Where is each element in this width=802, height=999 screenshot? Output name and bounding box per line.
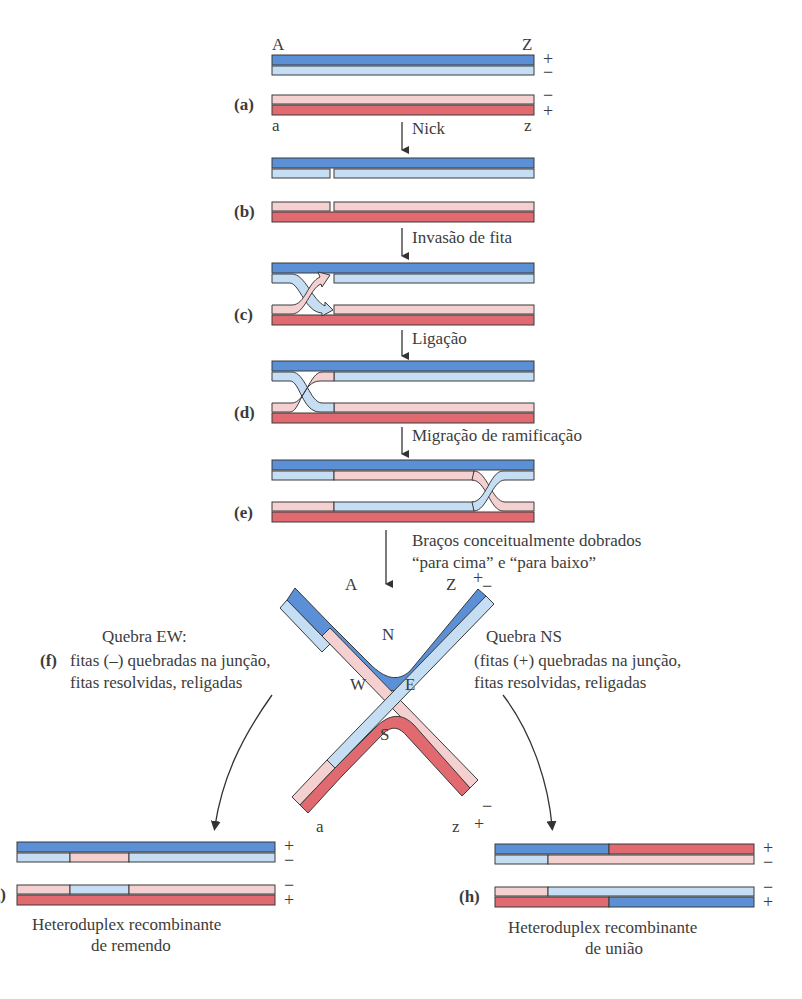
curved-arrow-icon (215, 695, 272, 826)
step-label-nick: Nick (412, 119, 446, 138)
arm-label-Z: Z (446, 575, 456, 594)
end-label-a: a (272, 116, 280, 135)
panel-label-c: (c) (234, 305, 253, 324)
duplex-a-bottom (272, 95, 534, 115)
sign-minus: − (543, 62, 553, 82)
sign-minus: − (763, 852, 773, 872)
sign-plus: + (474, 814, 484, 834)
splice-caption-line1: Heteroduplex recombinante (508, 918, 697, 937)
arm-label-A: A (345, 575, 358, 594)
step-label-branch-migration: Migração de ramificação (412, 426, 582, 445)
ew-cleavage-line2: fitas resolvidas, religadas (70, 673, 242, 692)
arm-label-z: z (452, 817, 460, 836)
sign-plus: + (543, 101, 553, 121)
ew-cleavage-line1: fitas (–) quebradas na junção, (70, 651, 271, 670)
end-label-z: z (524, 116, 532, 135)
recombination-diagram: A Z a z + − − + (a) Nick (b) Invasão de … (0, 0, 802, 999)
panel-label-d: (d) (234, 403, 255, 422)
step-label-arms-bent-line1: Braços conceitualmente dobrados (412, 531, 641, 550)
panel-label-h: (h) (459, 887, 480, 906)
step-label-ligation: Ligação (412, 329, 467, 348)
curved-arrow-icon (503, 695, 552, 826)
ns-cleavage-title: Quebra NS (486, 627, 562, 646)
duplex-a-top (272, 55, 534, 75)
sign-minus: − (482, 796, 492, 816)
duplex-g (17, 842, 275, 905)
duplex-h (495, 844, 754, 907)
sign-plus: + (284, 890, 294, 910)
panel-label-a: (a) (234, 95, 254, 114)
sign-plus: + (763, 892, 773, 912)
panel-label-e: (e) (234, 503, 253, 522)
panel-label-b: (b) (234, 202, 255, 221)
duplex-c (272, 263, 534, 325)
sign-minus: − (284, 850, 294, 870)
duplex-b-bottom (272, 202, 534, 222)
end-label-A: A (272, 35, 285, 54)
end-label-Z: Z (522, 35, 532, 54)
ns-cleavage-line1: (fitas (+) quebradas na junção, (474, 651, 681, 670)
junction-label-W: W (350, 675, 367, 694)
duplex-e (272, 460, 534, 522)
patch-caption-line1: Heteroduplex recombinante (32, 915, 221, 934)
holliday-junction (280, 588, 494, 813)
patch-caption-line2: de remendo (91, 936, 171, 955)
ns-cleavage-line2: fitas resolvidas, religadas (474, 673, 646, 692)
step-label-invasion: Invasão de fita (412, 228, 513, 247)
splice-caption-line2: de união (585, 939, 643, 958)
junction-label-S: S (380, 725, 389, 744)
duplex-d (272, 361, 534, 423)
panel-label-f: (f) (40, 651, 57, 670)
junction-label-E: E (405, 675, 415, 694)
junction-label-N: N (382, 625, 394, 644)
duplex-b-top (272, 158, 534, 178)
arm-label-a: a (316, 817, 324, 836)
sign-minus: − (482, 576, 492, 596)
panel-label-g: (g) (0, 885, 6, 904)
step-label-arms-bent-line2: “para cima” e “para baixo” (412, 553, 596, 572)
ew-cleavage-title: Quebra EW: (102, 627, 187, 646)
